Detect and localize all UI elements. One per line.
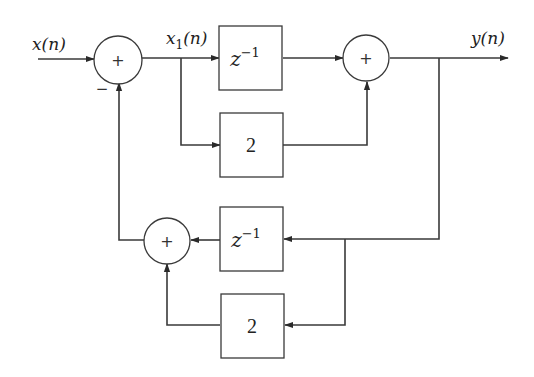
svg-text:2: 2	[246, 134, 256, 156]
plus-sign: +	[359, 49, 372, 68]
block-diagram: + − + + z−1 2 z−1 2 x(n) x1(n) y(n)	[0, 0, 534, 377]
forward-gain-block: 2	[220, 113, 283, 177]
output-summer: +	[343, 35, 389, 81]
gain-to-sum-wire	[283, 82, 367, 145]
input-signal-label: x(n)	[32, 34, 66, 54]
minus-sign: −	[96, 80, 109, 98]
plus-sign: +	[160, 232, 173, 251]
feedback-gain-block: 2	[221, 294, 284, 358]
input-summer: +	[94, 36, 142, 84]
feedback-wire	[284, 58, 439, 239]
feedback-summer: +	[144, 218, 190, 264]
plus-sign: +	[111, 51, 124, 70]
feedback-return-wire	[119, 83, 144, 240]
x1-branch-wire	[181, 58, 220, 145]
svg-text:2: 2	[247, 315, 257, 337]
output-signal-label: y(n)	[470, 28, 505, 48]
intermediate-signal-label: x1(n)	[166, 28, 207, 52]
feedback-delay-block: z−1	[220, 207, 283, 271]
fb-gain-to-sum-wire	[167, 264, 220, 325]
feedback-branch-wire	[285, 239, 345, 325]
forward-delay-block: z−1	[219, 26, 282, 90]
